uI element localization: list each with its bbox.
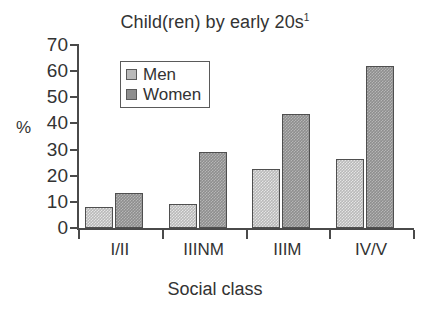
y-axis-tick-label: 30 — [28, 140, 68, 159]
x-axis-tick — [246, 230, 248, 239]
bar-iiinm-men — [169, 204, 197, 228]
y-axis-tick — [70, 175, 78, 177]
x-axis-tick — [162, 230, 164, 239]
chart-title: Child(ren) by early 20s1 — [0, 12, 430, 33]
legend-swatch-women-icon — [126, 89, 137, 100]
y-axis-tick-label: 60 — [28, 61, 68, 80]
chart-title-text: Child(ren) by early 20s — [120, 12, 303, 32]
x-axis-tick-label: IIIM — [246, 240, 330, 260]
x-axis-tick-label: IIINM — [162, 240, 246, 260]
legend-label-women: Women — [143, 86, 201, 103]
x-axis-tick — [78, 230, 80, 239]
bar-iiim-men — [252, 169, 280, 228]
x-axis-tick-label: I/II — [78, 240, 162, 260]
x-axis-title: Social class — [0, 279, 430, 300]
legend-item-men: Men — [126, 64, 201, 84]
legend-swatch-men-icon — [126, 69, 137, 80]
y-axis-tick — [70, 122, 78, 124]
bar-i-ii-women — [115, 193, 143, 228]
y-axis-tick — [70, 201, 78, 203]
legend: Men Women — [120, 61, 210, 108]
y-axis-tick-label: 10 — [28, 192, 68, 211]
y-axis-tick — [70, 149, 78, 151]
y-axis-tick-label: 40 — [28, 113, 68, 132]
y-axis-tick-label: 70 — [28, 35, 68, 54]
y-axis-tick — [70, 227, 78, 229]
bar-iiim-women — [282, 114, 310, 228]
bar-iv-v-women — [366, 66, 394, 228]
chart-title-footnote-marker: 1 — [304, 12, 310, 23]
x-axis-tick — [329, 230, 331, 239]
bar-iiinm-women — [199, 152, 227, 228]
legend-label-men: Men — [143, 66, 176, 83]
y-axis-tick — [70, 96, 78, 98]
bar-iv-v-men — [336, 159, 364, 228]
bar-chart-figure: Child(ren) by early 20s1 % Social class … — [0, 0, 430, 320]
x-axis-tick-label: IV/V — [329, 240, 413, 260]
y-axis-tick-label: 50 — [28, 87, 68, 106]
legend-item-women: Women — [126, 84, 201, 104]
bar-i-ii-men — [85, 207, 113, 228]
y-axis-tick-label: 20 — [28, 166, 68, 185]
y-axis-tick-label: 0 — [28, 218, 68, 237]
y-axis-tick — [70, 44, 78, 46]
y-axis-tick — [70, 70, 78, 72]
x-axis-tick — [413, 230, 415, 239]
